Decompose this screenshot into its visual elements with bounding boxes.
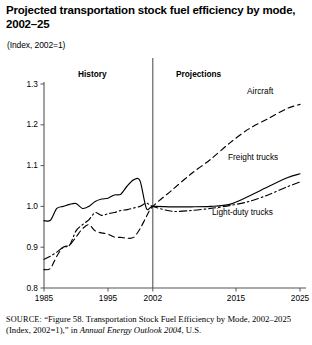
x-axis-tick-label: 2002 [136,293,170,303]
y-axis-tick-label: 1.3 [16,79,38,89]
projections-period-label: Projections [176,69,221,79]
series-label-freight-trucks: Freight trucks [228,152,278,162]
history-period-label: History [78,69,107,79]
series-line-light-duty-trucks [44,182,300,260]
x-axis-tick-label: 1995 [91,293,125,303]
y-axis-tick-label: 1.0 [16,201,38,211]
chart-subtitle: (Index, 2002=1) [7,40,65,50]
y-axis-tick-label: 1.1 [16,160,38,170]
source-prefix: SOURCE: [6,315,42,324]
series-line-aircraft [44,104,300,269]
y-axis-tick-label: 0.8 [16,283,38,293]
x-axis-tick-label: 2025 [283,293,312,303]
y-axis-tick-label: 1.2 [16,119,38,129]
series-label-aircraft: Aircraft [247,86,273,96]
x-axis-tick-label: 1985 [27,293,61,303]
source-publication-title: Annual Energy Outlook 2004 [80,325,182,335]
source-note: SOURCE: “Figure 58. Transportation Stock… [6,314,308,336]
x-axis-tick-label: 2015 [219,293,253,303]
series-label-light-duty-trucks: Light-duty trucks [212,207,273,217]
y-axis-tick-label: 0.9 [16,242,38,252]
figure-page: Projected transportation stock fuel effi… [0,0,312,345]
page-title: Projected transportation stock fuel effi… [6,4,306,31]
source-text-part2: , U.S. [181,325,201,335]
